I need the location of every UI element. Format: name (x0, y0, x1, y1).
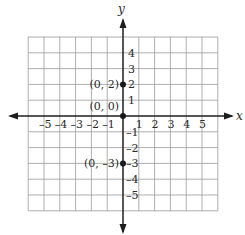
x-tick-label: 5 (199, 118, 206, 131)
point-marker (120, 160, 126, 166)
x-tick-label: –4 (55, 118, 68, 131)
y-tick-label: 2 (128, 78, 135, 91)
y-axis-down-arrow-icon (120, 224, 127, 234)
y-tick-label: –3 (126, 157, 139, 170)
y-tick-label: –2 (126, 142, 139, 155)
point-label: (0, 2) (89, 78, 119, 91)
point-label: (0, 0) (89, 100, 119, 113)
y-axis-label: y (117, 2, 125, 16)
x-tick-label: 3 (167, 118, 174, 131)
x-axis-label: x (236, 109, 243, 123)
y-tick-label: 1 (128, 94, 135, 107)
coordinate-plane: x y –5–4–3–2–1123454321–1–2–3–4–5 (0, 2)… (0, 0, 245, 235)
point-marker (120, 81, 126, 87)
x-tick-label: –1 (102, 118, 115, 131)
y-axis-up-arrow-icon (120, 18, 127, 28)
x-tick-label: –5 (39, 118, 52, 131)
y-tick-label: –5 (126, 189, 139, 202)
x-tick-label: –3 (71, 118, 84, 131)
y-tick-label: –4 (126, 173, 139, 186)
point-label: (0, –3) (84, 157, 119, 170)
y-tick-label: 3 (128, 63, 135, 76)
x-tick-label: 4 (183, 118, 190, 131)
x-tick-label: –2 (86, 118, 99, 131)
x-axis-right-arrow-icon (224, 113, 234, 120)
y-tick-label: –1 (126, 126, 139, 139)
point-marker (120, 113, 126, 119)
y-tick-label: 4 (128, 47, 135, 60)
x-axis-left-arrow-icon (8, 113, 18, 120)
x-tick-label: 2 (152, 118, 159, 131)
